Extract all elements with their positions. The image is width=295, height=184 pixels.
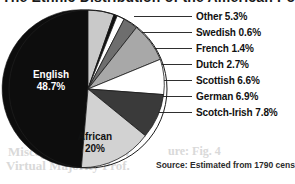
callout-label-french: French 1.4% [196, 40, 295, 56]
callout-label-german: German 6.9% [196, 88, 295, 104]
source-note: Source: Estimated from 1790 census [156, 160, 295, 170]
pie-label-african: African 20% [66, 131, 124, 154]
callout-label-scottish: Scottish 6.6% [196, 72, 295, 88]
pie-label-african-value: 20% [66, 143, 124, 155]
pie-label-african-name: African [66, 131, 124, 143]
callout-label-swedish: Swedish 0.6% [196, 24, 295, 40]
pie-chart-figure: Miscegenation? Fig. 4 Virtual Majority P… [0, 0, 295, 184]
pie-label-english: English 48.7% [20, 69, 82, 92]
pie-label-english-name: English [20, 69, 82, 81]
pie-label-english-value: 48.7% [20, 81, 82, 93]
callout-label-scotch-irish: Scotch-Irish 7.8% [196, 104, 295, 120]
callout-label-other: Other 5.3% [196, 8, 295, 24]
callout-label-list: Other 5.3% Swedish 0.6% French 1.4% Dutc… [196, 8, 295, 120]
callout-label-dutch: Dutch 2.7% [196, 56, 295, 72]
